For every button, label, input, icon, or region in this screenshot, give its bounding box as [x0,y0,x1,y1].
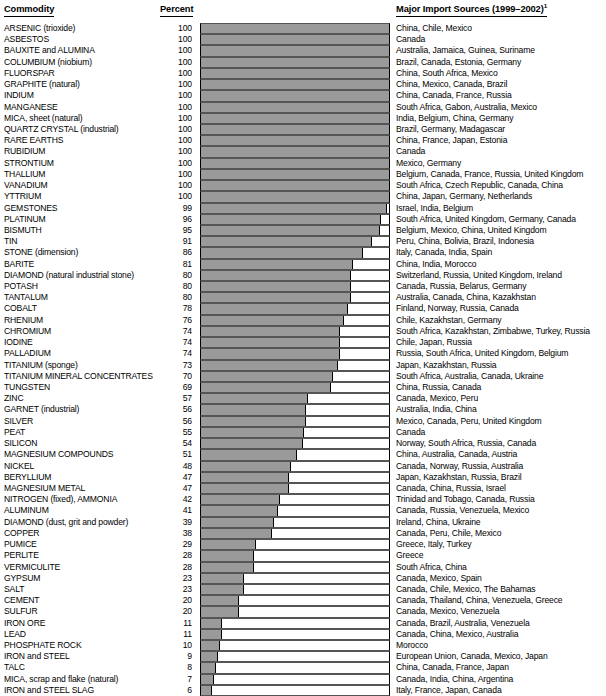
percent-value: 100 [140,169,192,180]
import-sources-label: China, Mexico, Canada, Brazil [396,79,507,90]
chart-row: PHOSPHATE ROCK10Morocco [0,640,606,651]
commodity-label: CEMENT [4,595,39,606]
chart-row: RUBIDIUM100Canada [0,146,606,157]
import-sources-label: Canada [396,427,425,438]
percent-value: 20 [140,606,192,617]
import-sources-label: Canada, Thailand, China, Venezuela, Gree… [396,595,563,606]
bar-track [200,214,390,225]
commodity-label: BARITE [4,259,34,270]
bar-track [200,562,390,573]
percent-value: 23 [140,584,192,595]
percent-value: 6 [140,685,192,696]
bar-fill [201,136,389,145]
import-sources-label: Canada, Chile, Mexico, The Bahamas [396,584,535,595]
bar-track [200,360,390,371]
import-sources-label: Chile, Kazakhstan, Germany [396,315,501,326]
bar-fill [201,293,351,302]
import-sources-label: Israel, India, Belgium [396,203,473,214]
commodity-label: VERMICULITE [4,562,60,573]
commodity-label: GEMSTONES [4,203,57,214]
bar-fill [201,80,389,89]
commodity-label: QUARTZ CRYSTAL (industrial) [4,124,119,135]
bar-fill [201,215,381,224]
percent-value: 51 [140,449,192,460]
chart-row: IRON and STEEL SLAG6Italy, France, Japan… [0,685,606,696]
percent-value: 100 [140,68,192,79]
commodity-label: RARE EARTHS [4,135,63,146]
import-sources-label: Greece, Italy, Turkey [396,539,472,550]
percent-value: 100 [140,34,192,45]
commodity-label: MICA, sheet (natural) [4,113,83,124]
percent-value: 28 [140,562,192,573]
import-sources-label: Australia, Canada, China, Kazakhstan [396,292,536,303]
import-sources-label: Canada [396,34,425,45]
bar-track [200,483,390,494]
percent-value: 48 [140,461,192,472]
bar-track [200,584,390,595]
percent-value: 57 [140,393,192,404]
percent-value: 76 [140,315,192,326]
percent-value: 23 [140,573,192,584]
chart-row: SALT23Canada, Chile, Mexico, The Bahamas [0,584,606,595]
chart-row: ARSENIC (trioxide)100China, Chile, Mexic… [0,23,606,34]
import-sources-label: China, India, Morocco [396,259,476,270]
bar-fill [201,91,389,100]
bar-track [200,90,390,101]
import-sources-label: South Africa, United Kingdom, Germany, C… [396,214,576,225]
chart-row: IODINE74Chile, Japan, Russia [0,337,606,348]
import-sources-label: China, Canada, France, Japan [396,662,509,673]
chart-row: TUNGSTEN69China, Russia, Canada [0,382,606,393]
bar-track [200,494,390,505]
bar-track [200,674,390,685]
bar-track [200,259,390,270]
chart-row: GEMSTONES99Israel, India, Belgium [0,203,606,214]
chart-row: TANTALUM80Australia, Canada, China, Kaza… [0,292,606,303]
commodity-label: PERLITE [4,550,39,561]
bar-track [200,270,390,281]
percent-value: 100 [140,23,192,34]
bar-track [200,23,390,34]
bar-track [200,550,390,561]
commodity-label: COBALT [4,303,37,314]
import-sources-label: Canada, India, China, Argentina [396,674,513,685]
import-sources-label: Trinidad and Tobago, Canada, Russia [396,494,535,505]
bar-fill [201,652,218,661]
import-sources-label: Canada, Norway, Russia, Australia [396,461,523,472]
chart-row: GYPSUM23Canada, Mexico, Spain [0,573,606,584]
chart-row: BISMUTH95Belgium, Mexico, China, United … [0,225,606,236]
chart-row: BARITE81China, India, Morocco [0,259,606,270]
chart-row: ALUMINUM41Canada, Russia, Venezuela, Mex… [0,505,606,516]
bar-track [200,416,390,427]
commodity-label: DIAMOND (dust, grit and powder) [4,517,128,528]
bar-fill [201,506,278,515]
chart-row: PEAT55Canada [0,427,606,438]
percent-value: 91 [140,236,192,247]
chart-row: STRONTIUM100Mexico, Germany [0,158,606,169]
bar-fill [201,338,340,347]
import-sources-label: Japan, Kazakhstan, Russia [396,360,496,371]
chart-row: RARE EARTHS100China, France, Japan, Esto… [0,135,606,146]
import-sources-label: Canada, Peru, Chile, Mexico [396,528,501,539]
commodity-label: ASBESTOS [4,34,49,45]
bar-fill [201,125,389,134]
chart-row: TITANIUM MINERAL CONCENTRATES70South Afr… [0,371,606,382]
import-sources-label: India, Belgium, China, Germany [396,113,513,124]
bar-fill [201,271,351,280]
bar-fill [201,450,297,459]
import-sources-label: Canada [396,146,425,157]
commodity-label: TUNGSTEN [4,382,50,393]
percent-value: 74 [140,326,192,337]
commodity-label: COPPER [4,528,39,539]
bar-fill [201,361,338,370]
bar-track [200,404,390,415]
percent-value: 95 [140,225,192,236]
percent-value: 10 [140,640,192,651]
commodity-label: RUBIDIUM [4,146,45,157]
bar-track [200,505,390,516]
bar-fill [201,574,244,583]
bar-fill [201,260,353,269]
chart-row: VERMICULITE28South Africa, China [0,562,606,573]
import-sources-label: China, Russia, Canada [396,382,481,393]
chart-row: ASBESTOS100Canada [0,34,606,45]
